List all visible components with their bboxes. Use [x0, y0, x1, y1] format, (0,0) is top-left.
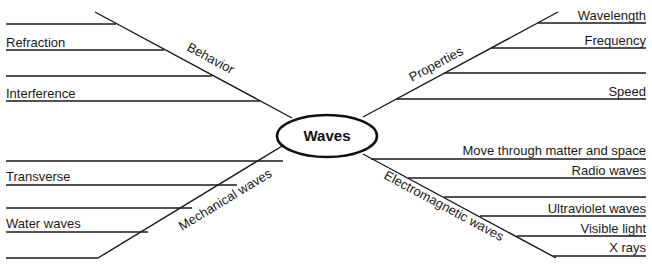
center-label: Waves [304, 127, 351, 144]
electromagnetic-item-radio-waves: Radio waves [572, 163, 647, 178]
center-node: Waves [277, 115, 377, 157]
mechanical-spine [98, 140, 292, 258]
properties-item-frequency: Frequency [585, 33, 647, 48]
electromagnetic-label: Electromagnetic waves [382, 167, 507, 244]
branch-behavior: Refraction Interference Behavior [6, 12, 292, 118]
properties-item-wavelength: Wavelength [578, 8, 646, 23]
concept-map: Refraction Interference Behavior Wavelen… [0, 0, 652, 265]
mechanical-label: Mechanical waves [176, 165, 275, 233]
branch-mechanical-waves: Transverse Water waves Mechanical waves [6, 140, 292, 258]
properties-item-speed: Speed [608, 84, 646, 99]
behavior-item-refraction: Refraction [6, 35, 65, 50]
behavior-label: Behavior [185, 39, 238, 77]
properties-spine [363, 12, 558, 117]
behavior-spine [95, 12, 292, 118]
mechanical-item-water-waves: Water waves [6, 216, 81, 231]
branch-electromagnetic-waves: Move through matter and space Radio wave… [363, 143, 646, 258]
electromagnetic-item-ultraviolet: Ultraviolet waves [548, 201, 647, 216]
electromagnetic-item-move-through: Move through matter and space [462, 143, 646, 158]
branch-properties: Wavelength Frequency Speed Properties [363, 8, 646, 117]
electromagnetic-item-visible-light: Visible light [580, 221, 646, 236]
properties-label: Properties [406, 43, 466, 85]
behavior-item-interference: Interference [6, 86, 75, 101]
mechanical-item-transverse: Transverse [6, 169, 71, 184]
electromagnetic-item-x-rays: X rays [609, 240, 646, 255]
